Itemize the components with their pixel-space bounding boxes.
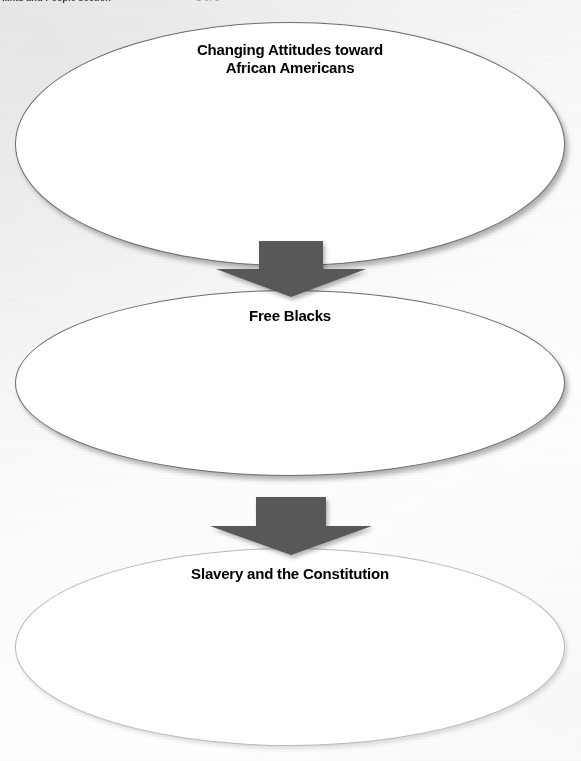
flow-node-3-label: Slavery and the Constitution: [16, 565, 564, 583]
flow-node-free-blacks[interactable]: Free Blacks: [15, 290, 565, 476]
running-header-left-text: ...nts and People section: [2, 0, 111, 3]
running-header: ...nts and People section 1 of 3: [0, 0, 581, 9]
flow-node-3-label-line1: Slavery and the Constitution: [191, 565, 389, 582]
flow-node-2-label-line1: Free Blacks: [249, 307, 331, 324]
flow-node-slavery-constitution[interactable]: Slavery and the Constitution: [15, 548, 565, 746]
flow-node-1-label: Changing Attitudes toward African Americ…: [16, 41, 564, 76]
down-arrow-icon: [216, 241, 366, 297]
flow-node-1-label-line1: Changing Attitudes toward: [197, 41, 383, 58]
flow-node-changing-attitudes[interactable]: Changing Attitudes toward African Americ…: [15, 22, 565, 266]
down-arrow-icon: [210, 497, 372, 555]
running-header-right-text: 1 of 3: [196, 0, 220, 3]
flow-node-1-label-line2: African Americans: [226, 59, 355, 76]
flow-node-2-label: Free Blacks: [16, 307, 564, 325]
diagram-page: ...nts and People section 1 of 3 Changin…: [0, 0, 581, 761]
